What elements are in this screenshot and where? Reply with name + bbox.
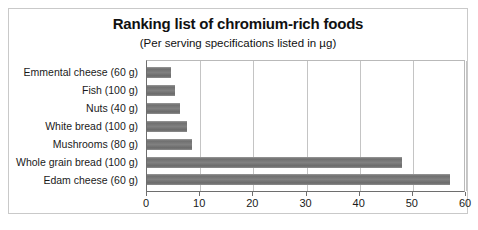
axis-tick-label-40: 40 bbox=[353, 197, 365, 209]
axis-tick-40 bbox=[359, 192, 360, 196]
gridline-60 bbox=[466, 61, 467, 191]
axis-tick-label-60: 60 bbox=[459, 197, 471, 209]
category-label: Edam cheese (60 g) bbox=[9, 175, 143, 186]
axis-tick-10 bbox=[199, 192, 200, 196]
bar bbox=[147, 67, 171, 78]
value-axis: 0102030405060 bbox=[146, 192, 465, 214]
category-label: Emmental cheese (60 g) bbox=[9, 67, 143, 78]
bar-row bbox=[147, 85, 464, 96]
axis-tick-0 bbox=[146, 192, 147, 196]
chart-figure: Ranking list of chromium-rich foods (Per… bbox=[8, 8, 468, 214]
bar bbox=[147, 121, 187, 132]
category-label: Nuts (40 g) bbox=[9, 103, 143, 114]
bar-row bbox=[147, 67, 464, 78]
axis-tick-label-20: 20 bbox=[246, 197, 258, 209]
chart-subtitle: (Per serving specifications listed in µg… bbox=[9, 37, 467, 49]
category-label: Mushrooms (80 g) bbox=[9, 139, 143, 150]
category-axis-labels: Emmental cheese (60 g)Fish (100 g)Nuts (… bbox=[9, 60, 143, 192]
bar-row bbox=[147, 121, 464, 132]
axis-tick-label-10: 10 bbox=[193, 197, 205, 209]
bar bbox=[147, 85, 175, 96]
category-label: Whole grain bread (100 g) bbox=[9, 157, 143, 168]
category-label: White bread (100 g) bbox=[9, 121, 143, 132]
axis-tick-label-0: 0 bbox=[143, 197, 149, 209]
bar bbox=[147, 157, 402, 168]
bar bbox=[147, 139, 192, 150]
axis-tick-60 bbox=[465, 192, 466, 196]
axis-tick-20 bbox=[252, 192, 253, 196]
plot-area bbox=[146, 60, 465, 192]
bar bbox=[147, 103, 180, 114]
axis-tick-30 bbox=[306, 192, 307, 196]
chart-title: Ranking list of chromium-rich foods bbox=[9, 15, 467, 32]
bar-row bbox=[147, 139, 464, 150]
bar-series bbox=[147, 61, 464, 191]
bar-row bbox=[147, 174, 464, 185]
axis-tick-label-50: 50 bbox=[406, 197, 418, 209]
bar bbox=[147, 174, 450, 185]
bar-row bbox=[147, 157, 464, 168]
category-label: Fish (100 g) bbox=[9, 85, 143, 96]
bar-row bbox=[147, 103, 464, 114]
axis-tick-50 bbox=[412, 192, 413, 196]
axis-tick-label-30: 30 bbox=[299, 197, 311, 209]
